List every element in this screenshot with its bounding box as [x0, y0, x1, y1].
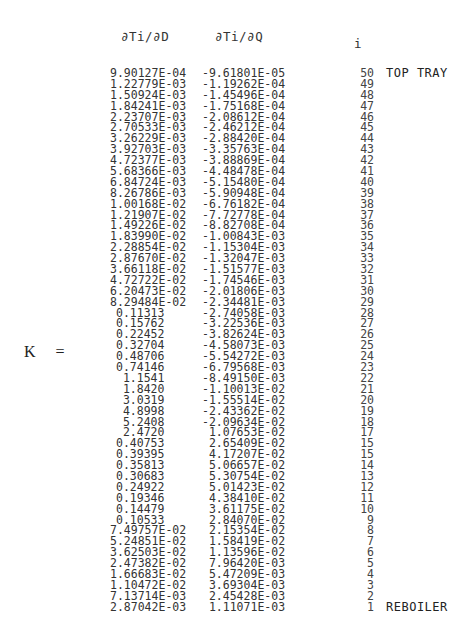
- tray-note: TOP TRAY: [386, 68, 448, 79]
- matrix-rows: 9.90127E-04-9.61801E-0550TOP TRAY1.22779…: [0, 68, 469, 613]
- table-row: 2.87042E-03 1.11071E-031REBOILER: [0, 602, 469, 613]
- matrix-document: ∂Ti/∂D ∂Ti/∂Q i K= 9.90127E-04-9.61801E-…: [0, 0, 469, 635]
- cell-dTi-dD: 2.87042E-03: [110, 602, 200, 613]
- tray-note: REBOILER: [386, 602, 448, 613]
- header-dTi-dD: ∂Ti/∂D: [121, 29, 169, 44]
- cell-dTi-dQ: 1.11071E-03: [202, 602, 285, 613]
- header-dTi-dQ: ∂Ti/∂Q: [215, 29, 263, 44]
- header-index: i: [354, 36, 362, 51]
- cell-index: 1: [352, 602, 374, 613]
